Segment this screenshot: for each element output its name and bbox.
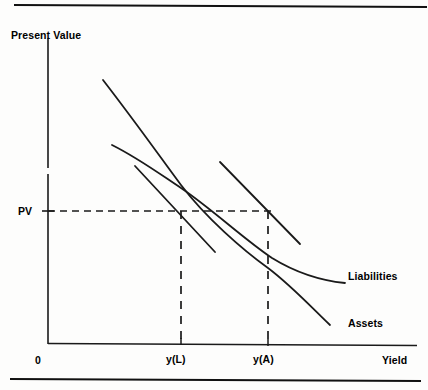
series-label-liabilities: Liabilities bbox=[348, 271, 398, 282]
tangent-line-at-yl bbox=[135, 166, 215, 252]
pv-axis-tick-label: PV bbox=[18, 206, 32, 217]
x-axis-title: Yield bbox=[382, 355, 407, 366]
x-tick-label-ya: y(A) bbox=[253, 354, 274, 365]
series-label-assets: Assets bbox=[348, 318, 383, 329]
chart-canvas bbox=[0, 0, 428, 390]
x-axis bbox=[48, 344, 417, 346]
y-axis-title: Present Value bbox=[11, 30, 81, 41]
liabilities-curve bbox=[112, 145, 345, 283]
bottom-rule bbox=[10, 379, 421, 381]
present-value-yield-figure: Present Value PV 0 y(L) y(A) Yield Liabi… bbox=[0, 0, 428, 390]
top-rule bbox=[14, 5, 427, 7]
tangent-line-at-ya bbox=[220, 162, 300, 244]
x-tick-label-yl: y(L) bbox=[166, 354, 186, 365]
origin-label: 0 bbox=[35, 355, 41, 366]
assets-curve bbox=[103, 80, 330, 325]
